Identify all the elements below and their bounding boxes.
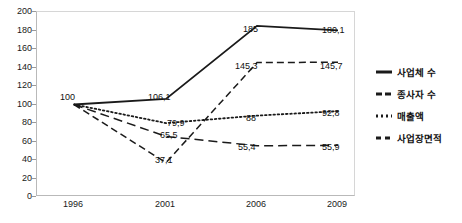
data-point-label: 37,1: [155, 155, 173, 165]
legend-label: 종사자 수: [397, 87, 436, 101]
legend-item[interactable]: 종사자 수: [376, 84, 462, 104]
x-tick-label: 2001: [142, 199, 188, 209]
legend-label: 사업체 수: [397, 65, 436, 79]
x-tick-label: 2006: [233, 199, 279, 209]
y-tick-label: 160: [2, 43, 32, 53]
data-point-label: 185: [243, 24, 258, 34]
data-point-label: 88: [246, 113, 256, 123]
data-point-label: 100: [60, 92, 75, 102]
y-tick-label: 20: [2, 173, 32, 183]
y-tick-label: 120: [2, 80, 32, 90]
data-point-label: 145,3: [235, 61, 258, 71]
data-point-label: 145,7: [320, 61, 343, 71]
legend-item[interactable]: 사업장면적: [376, 128, 462, 148]
x-tick-label: 2009: [314, 199, 360, 209]
data-point-label: 92,8: [322, 108, 340, 118]
data-point-label: 55,4: [238, 142, 256, 152]
legend-item[interactable]: 사업체 수: [376, 62, 462, 82]
y-tick-label: 60: [2, 136, 32, 146]
y-tick-label: 40: [2, 154, 32, 164]
y-tick-label: 180: [2, 25, 32, 35]
series-line: [74, 105, 338, 124]
legend-line-icon: [376, 89, 392, 99]
y-tick-mark: [32, 196, 36, 197]
legend-label: 사업장면적: [397, 131, 442, 145]
series-lines: [37, 12, 356, 197]
legend-line-icon: [376, 133, 392, 143]
x-tick-label: 1996: [50, 199, 96, 209]
y-tick-label: 140: [2, 62, 32, 72]
legend-label: 매출액: [397, 109, 424, 123]
data-point-label: 65,5: [160, 130, 178, 140]
data-point-label: 55,9: [322, 142, 340, 152]
data-point-label: 106,1: [148, 92, 171, 102]
y-tick-label: 200: [2, 6, 32, 16]
legend-line-icon: [376, 67, 392, 77]
plot-area: [36, 11, 355, 196]
y-axis: 200180160140120100806040200: [0, 11, 32, 196]
series-line: [74, 26, 338, 105]
x-axis: 1996200120062009: [0, 199, 462, 215]
line-chart: 200180160140120100806040200 100106,11851…: [0, 0, 462, 223]
y-tick-label: 100: [2, 99, 32, 109]
series-line: [74, 105, 338, 146]
legend-line-icon: [376, 111, 392, 121]
data-point-label: 79,9: [167, 118, 185, 128]
legend-item[interactable]: 매출액: [376, 106, 462, 126]
y-tick-label: 80: [2, 117, 32, 127]
data-point-label: 180,1: [322, 25, 345, 35]
legend: 사업체 수종사자 수매출액사업장면적: [376, 62, 462, 150]
